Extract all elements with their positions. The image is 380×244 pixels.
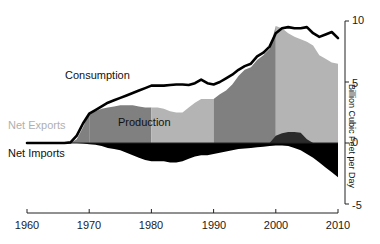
y-axis-title: Billion Cubic Feet per Day xyxy=(347,84,357,188)
net-imports-area xyxy=(27,143,338,177)
x-tick-label-2010: 2010 xyxy=(326,219,350,231)
y-tick-label-10: 10 xyxy=(352,14,364,26)
annotation-net-exports: Net Exports xyxy=(8,119,65,131)
x-axis xyxy=(27,209,338,213)
x-tick-label-1970: 1970 xyxy=(77,219,101,231)
x-tick-label-1990: 1990 xyxy=(202,219,226,231)
x-axis-spine xyxy=(27,209,338,213)
x-tick-label-1960: 1960 xyxy=(15,219,39,231)
x-tick-label-2000: 2000 xyxy=(264,219,288,231)
annotation-consumption: Consumption xyxy=(65,69,130,81)
x-tick-label-1980: 1980 xyxy=(139,219,163,231)
y-tick-label-minus-5: -5 xyxy=(352,199,362,211)
annotation-net-imports: Net Imports xyxy=(8,147,65,159)
chart-figure: 1960 1970 1980 1990 2000 2010 10 5 0 -5 … xyxy=(0,0,380,244)
annotation-production: Production xyxy=(118,116,171,128)
series-net-imports-area xyxy=(27,143,338,177)
